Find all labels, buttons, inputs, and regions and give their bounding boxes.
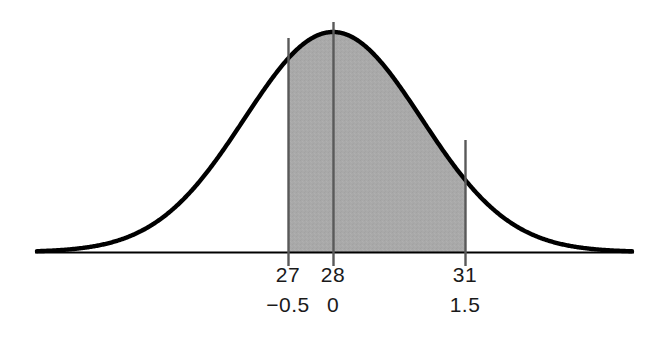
tick-label-z-1-5: 1.5: [450, 293, 481, 317]
tick-label-raw-31: 31: [453, 263, 477, 287]
tick-label-raw-27: 27: [276, 263, 300, 287]
tick-label-z-minus-0-5: −0.5: [266, 293, 309, 317]
tick-label-z-0: 0: [327, 293, 339, 317]
normal-distribution-figure: 27 28 31 −0.5 0 1.5: [0, 0, 659, 351]
tick-label-raw-28: 28: [321, 263, 345, 287]
